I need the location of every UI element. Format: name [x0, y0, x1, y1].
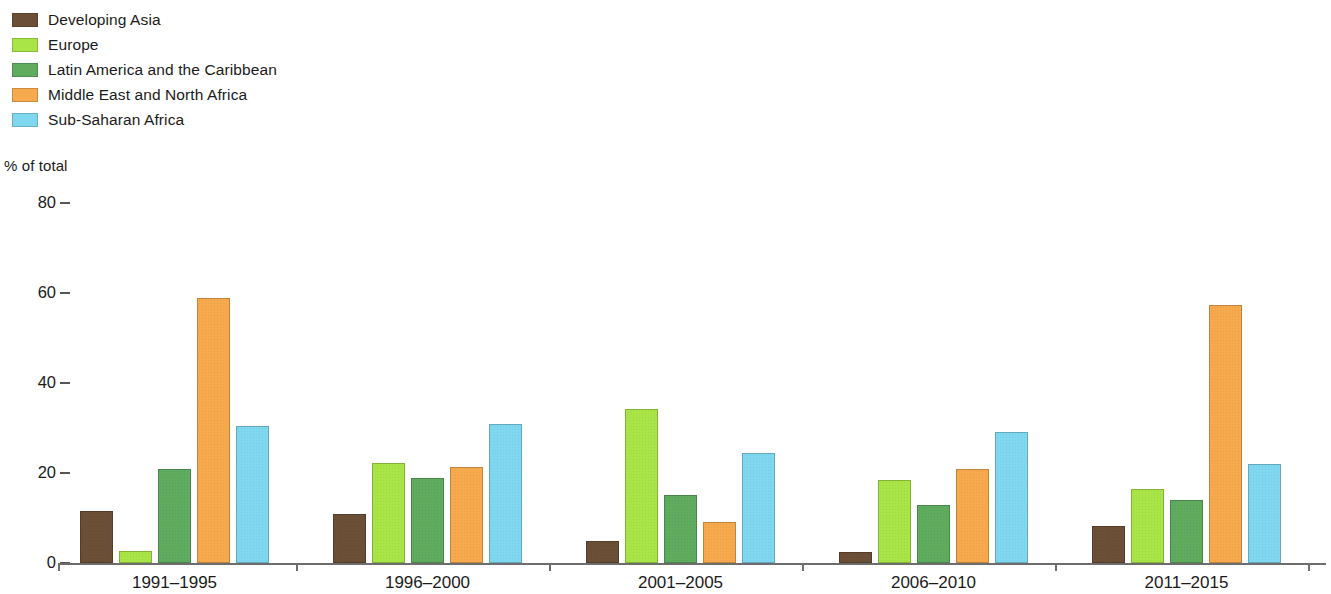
bar-chart: Developing AsiaEuropeLatin America and t…: [0, 0, 1331, 594]
bar: [372, 463, 405, 563]
y-axis-tick-label: 60: [0, 284, 56, 301]
bar: [197, 298, 230, 564]
x-axis-tick-mark: [802, 565, 804, 571]
bar: [80, 511, 113, 563]
bar: [333, 514, 366, 563]
x-axis-tick-mark: [296, 565, 298, 571]
bar: [956, 469, 989, 564]
x-axis-tick-mark: [1308, 565, 1310, 571]
y-axis-tick-mark: [60, 292, 70, 294]
x-axis-tick-mark: [1055, 565, 1057, 571]
bar: [1209, 305, 1242, 563]
x-axis-category-label: 2006–2010: [891, 574, 976, 591]
bar: [703, 522, 736, 563]
y-axis-tick-label: 0: [0, 554, 56, 571]
bar: [158, 469, 191, 564]
bar: [411, 478, 444, 564]
x-axis-line: [58, 563, 1326, 565]
bar: [664, 495, 697, 563]
x-axis-origin-tick-mark: [58, 565, 60, 571]
x-axis-tick-mark: [549, 565, 551, 571]
y-axis-tick-label: 40: [0, 374, 56, 391]
x-axis-category-label: 1991–1995: [132, 574, 217, 591]
y-axis-tick-mark: [60, 202, 70, 204]
bar: [489, 424, 522, 564]
y-axis-tick-label: 80: [0, 194, 56, 211]
bar: [878, 480, 911, 563]
bar: [236, 426, 269, 563]
bar: [742, 453, 775, 563]
bar: [1092, 526, 1125, 563]
bar: [917, 505, 950, 563]
bar: [625, 409, 658, 563]
bar: [450, 467, 483, 563]
y-axis-tick-label: 20: [0, 464, 56, 481]
bar: [1248, 464, 1281, 563]
bar: [995, 432, 1028, 563]
bar: [1170, 500, 1203, 563]
plot-area: 8060402001991–19951996–20002001–20052006…: [0, 0, 1331, 594]
x-axis-category-label: 2011–2015: [1145, 574, 1229, 591]
x-axis-category-label: 2001–2005: [638, 574, 723, 591]
bar: [1131, 489, 1164, 563]
bar: [119, 551, 152, 563]
y-axis-tick-mark: [60, 472, 70, 474]
x-axis-category-label: 1996–2000: [385, 574, 470, 591]
bar: [586, 541, 619, 564]
y-axis-tick-mark: [60, 382, 70, 384]
bar: [839, 552, 872, 563]
